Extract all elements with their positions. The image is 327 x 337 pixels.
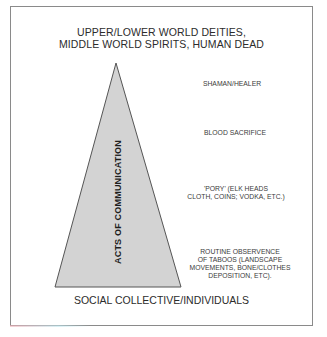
level-label-shaman: SHAMAN/HEALER (203, 80, 261, 88)
level-label-blood-sacrifice: BLOOD SACRIFICE (204, 129, 266, 137)
level-label-line: DEPOSITION, ETC). (190, 272, 291, 280)
level-label-line: 'PORY' (ELK HEADS (187, 185, 284, 193)
level-label-line: SHAMAN/HEALER (203, 80, 261, 88)
level-label-taboos: ROUTINE OBSERVENCE OF TABOOS (LANDSCAPE … (190, 248, 291, 280)
level-label-line: CLOTH, COINS; VODKA, ETC.) (187, 193, 284, 201)
level-label-pory: 'PORY' (ELK HEADS CLOTH, COINS; VODKA, E… (187, 185, 284, 201)
acts-of-communication-label: ACTS OF COMMUNICATION (113, 140, 123, 264)
level-label-line: ROUTINE OBSERVENCE (190, 248, 291, 256)
level-label-line: MOVEMENTS, BONE/CLOTHES (190, 264, 291, 272)
pyramid-triangle (0, 0, 327, 337)
base-label: SOCIAL COLLECTIVE/INDIVIDUALS (10, 294, 313, 306)
level-label-line: OF TABOOS (LANDSCAPE (190, 256, 291, 264)
level-label-line: BLOOD SACRIFICE (204, 129, 266, 137)
